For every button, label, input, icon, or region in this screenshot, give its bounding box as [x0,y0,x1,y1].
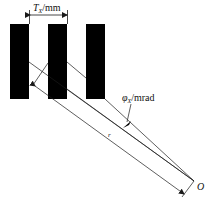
distance-dimension [35,86,184,194]
grating-bar-3 [86,24,105,99]
angle-label: φX/mrad [122,92,155,104]
angle-indicator [123,104,131,128]
grating-diagram: TX/mm r φX/mrad O [0,0,211,209]
origin-label: O [197,181,204,192]
distance-label: r [108,131,111,139]
grating-bar-1 [10,24,29,99]
pitch-label: TX/mm [33,2,61,14]
